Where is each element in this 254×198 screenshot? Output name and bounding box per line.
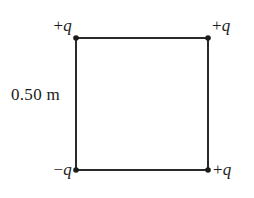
charge-square-figure: +q +q −q +q 0.50 m (0, 0, 254, 198)
charge-label-top-left: +q (0, 17, 72, 34)
charge-marker-top-left (73, 35, 79, 41)
charge-markers (73, 35, 211, 173)
charge-sign: + (54, 16, 64, 35)
charge-symbol: q (63, 160, 72, 179)
charge-sign: − (54, 160, 64, 179)
charge-sign: + (212, 16, 222, 35)
charge-marker-bottom-right (205, 167, 211, 173)
charge-symbol: q (223, 160, 232, 179)
charge-marker-bottom-left (73, 167, 79, 173)
charge-symbol: q (63, 16, 72, 35)
charge-label-bottom-left: −q (0, 161, 72, 178)
square-outline (76, 38, 208, 170)
charge-marker-top-right (205, 35, 211, 41)
charge-sign: + (213, 160, 223, 179)
charge-symbol: q (222, 16, 231, 35)
side-length-label: 0.50 m (11, 86, 60, 103)
charge-label-top-right: +q (212, 17, 231, 34)
charge-label-bottom-right: +q (213, 161, 232, 178)
